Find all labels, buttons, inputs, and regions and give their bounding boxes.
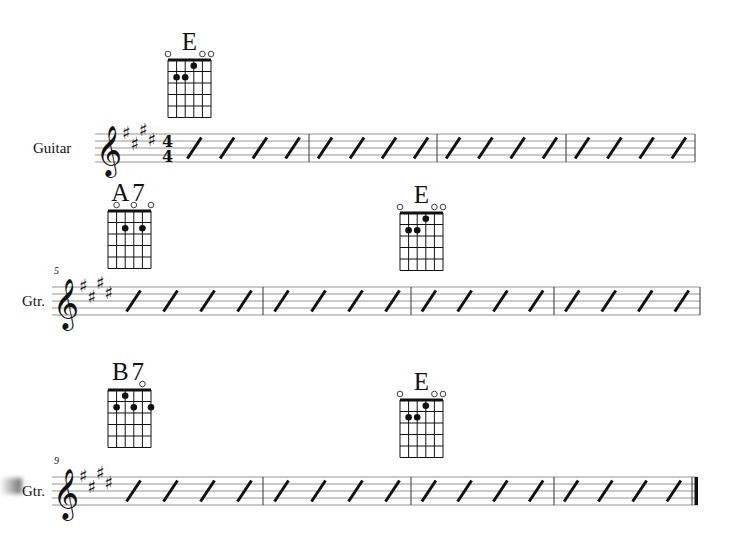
scan-shadow [0, 478, 22, 494]
instrument-label: Gtr. [22, 483, 45, 500]
measure-number: 9 [54, 455, 59, 466]
chord-name: A7 [100, 180, 160, 205]
time-signature-bottom: 4 [162, 147, 173, 166]
finger-dot [423, 215, 430, 222]
finger-dot [131, 404, 138, 411]
finger-dot [139, 225, 146, 232]
chord-name: E [160, 29, 220, 54]
finger-dot [122, 392, 129, 399]
finger-dot [113, 404, 120, 411]
measure-number: 5 [54, 265, 59, 276]
score-canvas: 𝄞♯♯♯♯44𝄞♯♯♯♯𝄞♯♯♯♯ [0, 0, 743, 540]
finger-dot [173, 74, 180, 81]
finger-dot [414, 227, 421, 234]
chord-name: E [392, 369, 452, 394]
sharp-icon: ♯ [122, 122, 131, 143]
instrument-label: Guitar [33, 140, 71, 157]
chord-name: B7 [100, 359, 160, 384]
finger-dot [414, 414, 421, 421]
finger-dot [148, 404, 155, 411]
finger-dot [182, 74, 189, 81]
chord-diagram-b7 [108, 381, 154, 447]
sharp-icon: ♯ [88, 476, 97, 497]
instrument-label: Gtr. [22, 293, 45, 310]
finger-dot [405, 227, 412, 234]
sharp-icon: ♯ [105, 282, 114, 303]
finger-dot [191, 62, 198, 69]
sharp-icon: ♯ [79, 465, 88, 486]
sharp-icon: ♯ [139, 119, 148, 140]
sharp-icon: ♯ [79, 275, 88, 296]
chord-diagram-e [397, 204, 446, 270]
staff-system-1: 𝄞♯♯♯♯44 [95, 119, 695, 179]
chord-diagram-e [165, 51, 214, 117]
treble-clef-icon: 𝄞 [53, 467, 79, 521]
sharp-icon: ♯ [96, 272, 105, 293]
treble-clef-icon: 𝄞 [96, 124, 122, 178]
finger-dot [122, 225, 129, 232]
chord-diagram-e [397, 391, 446, 457]
sharp-icon: ♯ [131, 133, 140, 154]
finger-dot [405, 414, 412, 421]
staff-system-3: 𝄞♯♯♯♯ [52, 462, 698, 522]
sharp-icon: ♯ [105, 472, 114, 493]
finger-dot [423, 402, 430, 409]
sharp-icon: ♯ [88, 286, 97, 307]
treble-clef-icon: 𝄞 [53, 277, 79, 331]
sharp-icon: ♯ [148, 129, 157, 150]
staff-system-2: 𝄞♯♯♯♯ [52, 272, 700, 332]
chord-name: E [392, 182, 452, 207]
chord-diagram-a7 [108, 202, 154, 268]
sharp-icon: ♯ [96, 462, 105, 483]
